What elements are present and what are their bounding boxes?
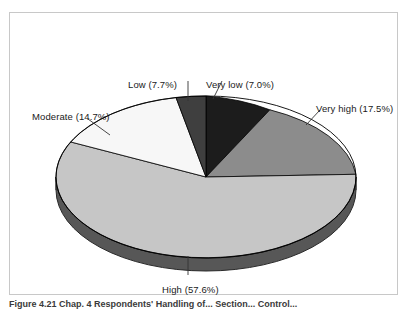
- pie-chart-graphic: [10, 13, 397, 294]
- pie-label-moderate: Moderate (14.7%): [32, 111, 110, 122]
- pie-label-high: High (57.6%): [162, 284, 219, 295]
- figure-root: Low (7.7%) Very low (7.0%) Very high (17…: [0, 0, 409, 312]
- pie-label-very-high: Very high (17.5%): [316, 103, 393, 114]
- pie-label-very-low: Very low (7.0%): [206, 79, 274, 90]
- pie-label-low: Low (7.7%): [128, 79, 177, 90]
- chart-frame: Low (7.7%) Very low (7.0%) Very high (17…: [9, 12, 398, 295]
- figure-caption: Figure 4.21 Chap. 4 Respondents' Handlin…: [9, 299, 401, 311]
